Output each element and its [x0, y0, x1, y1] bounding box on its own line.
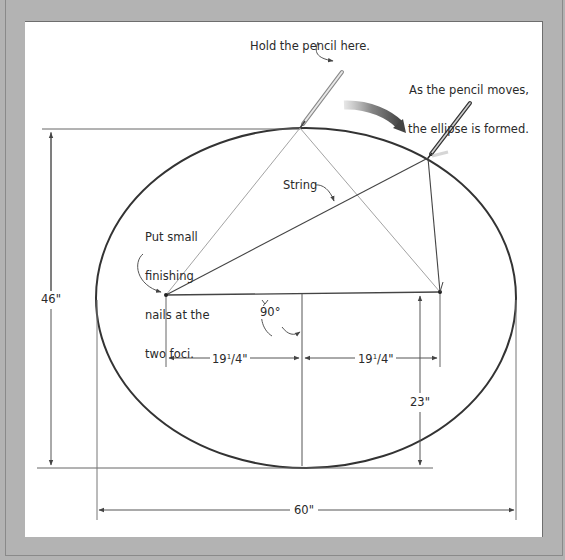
nails-line3: nails at the	[145, 309, 209, 322]
half-height-label: 23"	[408, 396, 432, 409]
nails-label: Put small finishing nails at the two foc…	[145, 205, 209, 374]
string-label: String	[283, 179, 317, 192]
nails-line2: finishing	[145, 270, 209, 283]
right-focus-distance-label: 191/4"	[356, 351, 396, 366]
width-dimension-label: 60"	[292, 504, 316, 517]
pencil-top-icon	[300, 72, 342, 128]
angle-label: 90°	[258, 306, 282, 319]
pencil-moves-line2: the ellipse is formed.	[408, 123, 529, 136]
hold-pencil-label: Hold the pencil here.	[250, 40, 370, 53]
height-dimension-label: 46"	[39, 293, 63, 306]
string-top-right	[300, 128, 440, 292]
nails-line1: Put small	[145, 231, 209, 244]
pencil-moves-line1: As the pencil moves,	[408, 84, 529, 97]
nails-line4: two foci.	[145, 348, 209, 361]
string-moving-right	[428, 158, 440, 292]
pencil-moves-label: As the pencil moves, the ellipse is form…	[408, 58, 529, 149]
left-focus-distance-label: 191/4"	[210, 351, 250, 366]
motion-arrow-icon	[344, 105, 406, 133]
